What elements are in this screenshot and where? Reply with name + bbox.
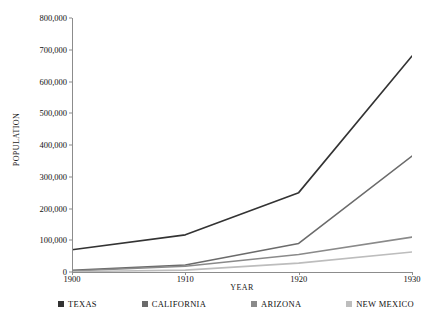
plot-area: 800,000700,000600,000500,000400,000300,0…: [72, 18, 412, 272]
chart-legend: TEXASCALIFORNIAARIZONANEW MEXICO: [58, 299, 414, 309]
y-tick-mark: [69, 49, 72, 50]
x-tick-mark: [72, 272, 73, 275]
legend-swatch-icon: [251, 301, 257, 307]
x-tick-mark: [412, 272, 413, 275]
x-tick-mark: [299, 272, 300, 275]
x-axis-title: YEAR: [72, 283, 412, 292]
y-axis-title-text: POPULATION: [13, 112, 22, 165]
legend-swatch-icon: [58, 301, 64, 307]
y-tick-mark: [69, 240, 72, 241]
y-axis-title: POPULATION: [8, 0, 26, 278]
legend-swatch-icon: [142, 301, 148, 307]
y-tick-mark: [69, 113, 72, 114]
legend-item[interactable]: CALIFORNIA: [142, 299, 206, 309]
series-line: [72, 56, 412, 250]
legend-label: TEXAS: [68, 299, 97, 309]
x-axis-line: [72, 272, 412, 273]
y-tick-label: 700,000: [39, 45, 72, 55]
legend-item[interactable]: ARIZONA: [251, 299, 301, 309]
legend-swatch-icon: [346, 301, 352, 307]
y-tick-label: 300,000: [39, 172, 72, 182]
y-tick-label: 600,000: [39, 77, 72, 87]
legend-item[interactable]: TEXAS: [58, 299, 97, 309]
legend-label: CALIFORNIA: [152, 299, 206, 309]
legend-label: ARIZONA: [261, 299, 301, 309]
x-tick-mark: [185, 272, 186, 275]
legend-item[interactable]: NEW MEXICO: [346, 299, 414, 309]
chart-page: POPULATION 800,000700,000600,000500,0004…: [0, 0, 422, 320]
y-tick-label: 500,000: [39, 108, 72, 118]
y-tick-label: 400,000: [39, 140, 72, 150]
y-tick-mark: [69, 176, 72, 177]
y-tick-mark: [69, 18, 72, 19]
chart-lines: [72, 18, 412, 272]
y-tick-mark: [69, 145, 72, 146]
y-tick-mark: [69, 81, 72, 82]
y-tick-label: 100,000: [39, 235, 72, 245]
y-tick-label: 200,000: [39, 204, 72, 214]
y-tick-mark: [69, 208, 72, 209]
legend-label: NEW MEXICO: [356, 299, 414, 309]
y-tick-label: 800,000: [39, 13, 72, 23]
y-axis-line: [72, 18, 73, 272]
